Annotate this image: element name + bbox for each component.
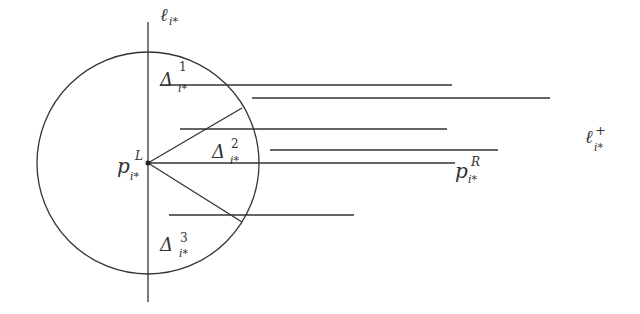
svg-text:Δ: Δ [159,234,173,255]
svg-text:i*: i* [179,247,189,260]
svg-text:L: L [134,149,143,163]
svg-text:p: p [117,154,130,178]
diagram-canvas: ℓ i* Δ 1 i* Δ 2 i* Δ 3 i* p L i* p R i* … [0,0,640,314]
svg-text:Δ: Δ [159,69,173,90]
svg-text:3: 3 [180,231,188,245]
svg-text:i*: i* [594,141,604,154]
label-l-istar: ℓ i* [160,4,179,28]
svg-text:+: + [595,123,606,138]
svg-text:p: p [455,159,468,183]
svg-text:ℓ: ℓ [585,126,593,147]
label-delta-3: Δ 3 i* [159,231,189,260]
svg-text:ℓ: ℓ [160,4,168,25]
svg-text:i*: i* [468,173,478,186]
svg-text:2: 2 [231,137,239,151]
ray-upper [148,108,242,163]
label-pR: p R i* [455,155,480,186]
svg-text:i*: i* [130,170,140,183]
ray-lower [148,163,242,222]
svg-text:1: 1 [179,60,187,74]
point-pL-dot [146,161,151,166]
svg-text:Δ: Δ [211,141,225,162]
svg-text:i*: i* [169,15,179,28]
label-delta-1: Δ 1 i* [159,60,188,95]
label-pL: p L i* [117,149,143,183]
svg-text:i*: i* [178,82,188,95]
label-l-plus: ℓ + i* [585,123,606,154]
svg-text:R: R [470,155,480,169]
svg-text:i*: i* [230,154,240,167]
